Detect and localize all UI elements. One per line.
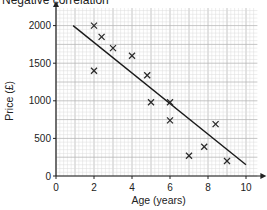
x-tick-label: 4 bbox=[129, 182, 135, 193]
x-axis-arrow-icon bbox=[260, 173, 266, 179]
y-tick-label: 2000 bbox=[29, 20, 52, 31]
x-tick-label: 6 bbox=[167, 182, 173, 193]
x-axis-label: Age (years) bbox=[131, 194, 185, 206]
y-axis-label: Price (£) bbox=[3, 81, 15, 121]
y-tick-label: 500 bbox=[34, 133, 51, 144]
y-axis-arrow-icon bbox=[53, 1, 59, 7]
x-tick-label: 8 bbox=[205, 182, 211, 193]
line-of-best-fit bbox=[73, 26, 246, 165]
y-tick-label: 1000 bbox=[29, 95, 52, 106]
x-tick-label: 0 bbox=[53, 182, 59, 193]
x-tick-label: 2 bbox=[91, 182, 97, 193]
y-tick-label: 1500 bbox=[29, 58, 52, 69]
y-tick-label: 0 bbox=[45, 171, 51, 182]
x-tick-label: 10 bbox=[240, 182, 252, 193]
scatter-chart: 02468100500100015002000Age (years)Price … bbox=[0, 0, 267, 210]
